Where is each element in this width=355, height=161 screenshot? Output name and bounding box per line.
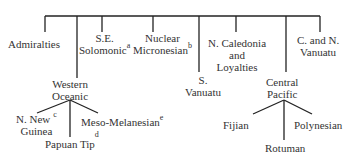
node-c-and-n-vanuatu: C. and N. Vanuatu bbox=[297, 34, 339, 58]
footnote-marker: b bbox=[188, 41, 192, 50]
label-line: Micronesian bbox=[133, 44, 188, 56]
footnote-marker: e bbox=[160, 113, 164, 122]
label-line: Oceanic bbox=[52, 90, 88, 102]
node-papuan-tip: Papuan Tipd bbox=[45, 138, 99, 150]
node-admiralties: Admiralties bbox=[8, 38, 60, 50]
label-line: Western bbox=[52, 78, 88, 90]
node-n-new-guinea: N. Newc Guinea bbox=[16, 113, 57, 137]
label-line: and bbox=[208, 49, 266, 61]
footnote-marker: d bbox=[95, 130, 99, 139]
node-western-oceanic: Western Oceanic bbox=[52, 78, 88, 102]
label-line: Pacific bbox=[266, 88, 298, 100]
label-line: Solomonic bbox=[79, 44, 127, 56]
label-line: S. bbox=[185, 74, 221, 86]
node-polynesian: Polynesian bbox=[294, 119, 342, 131]
node-se-solomonic: S.E. Solomonica bbox=[79, 32, 130, 56]
label-line: C. and N. bbox=[297, 34, 339, 46]
label-line: Loyalties bbox=[208, 61, 266, 73]
label-line: Nuclear bbox=[133, 32, 192, 44]
label-line: Vanuatu bbox=[297, 46, 339, 58]
node-meso-melanesian: Meso-Melanesiane bbox=[81, 116, 163, 128]
footnote-marker: a bbox=[127, 41, 131, 50]
label-line: Guinea bbox=[16, 125, 57, 137]
label-line: Central bbox=[266, 76, 298, 88]
node-central-pacific: Central Pacific bbox=[266, 76, 298, 100]
node-s-vanuatu: S. Vanuatu bbox=[185, 74, 221, 98]
label-line: Papuan Tip bbox=[45, 138, 95, 150]
label-line: Meso-Melanesian bbox=[81, 116, 160, 128]
label-line: Vanuatu bbox=[185, 86, 221, 98]
node-n-caledonia-loyalties: N. Caledonia and Loyalties bbox=[208, 37, 266, 73]
label-line: N. Caledonia bbox=[208, 37, 266, 49]
footnote-marker: c bbox=[53, 110, 57, 119]
label-line: S.E. bbox=[79, 32, 130, 44]
node-rotuman: Rotuman bbox=[265, 142, 305, 154]
node-nuclear-micronesian: Nuclear Micronesianb bbox=[133, 32, 192, 56]
node-fijian: Fijian bbox=[223, 119, 249, 131]
label-line: N. New bbox=[16, 113, 50, 125]
